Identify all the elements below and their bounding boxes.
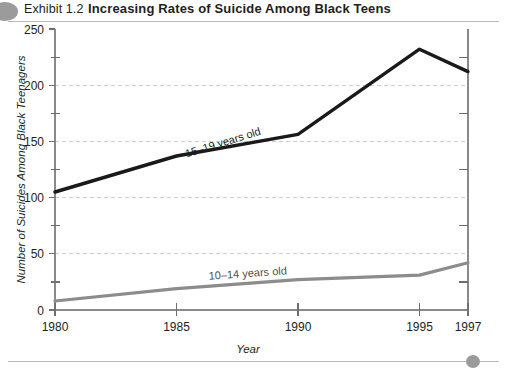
- y-tick-label-50: 50: [31, 247, 45, 261]
- x-axis-tick-labels: 1980 1985 1990 1995 1997: [42, 320, 482, 334]
- exhibit-title: Increasing Rates of Suicide Among Black …: [88, 1, 391, 16]
- chart-canvas: 250 200 150 100 50 0 1980 1985 1990 1995…: [0, 24, 507, 359]
- series-line-15-19: [55, 49, 468, 192]
- right-axis-ticks: [459, 57, 468, 282]
- y-tick-label-200: 200: [24, 79, 44, 93]
- exhibit-header: Exhibit 1.2 Increasing Rates of Suicide …: [0, 0, 507, 24]
- x-tick-label-1980: 1980: [42, 320, 69, 334]
- y-tick-label-150: 150: [24, 135, 44, 149]
- line-chart-figure: 250 200 150 100 50 0 1980 1985 1990 1995…: [0, 24, 507, 359]
- x-axis-title: Year: [236, 343, 261, 355]
- x-tick-label-1995: 1995: [406, 320, 433, 334]
- exhibit-number-label: Exhibit 1.2: [24, 2, 83, 16]
- gridlines: [55, 85, 468, 254]
- header-divider: [8, 21, 499, 22]
- y-axis-tick-labels: 250 200 150 100 50 0: [24, 24, 44, 318]
- y-axis-title: Number of Suicides Among Black Teenagers: [15, 55, 27, 283]
- x-tick-label-1997: 1997: [455, 320, 482, 334]
- series-label-10-14: 10–14 years old: [208, 264, 287, 281]
- x-tick-label-1990: 1990: [285, 320, 312, 334]
- y-tick-label-100: 100: [24, 191, 44, 205]
- footer-bullet-icon: [466, 355, 480, 368]
- y-tick-label-250: 250: [24, 24, 44, 37]
- header-bullet-icon: [0, 2, 18, 21]
- x-tick-label-1985: 1985: [163, 320, 190, 334]
- footer-divider: [8, 361, 499, 362]
- y-tick-label-0: 0: [37, 304, 44, 318]
